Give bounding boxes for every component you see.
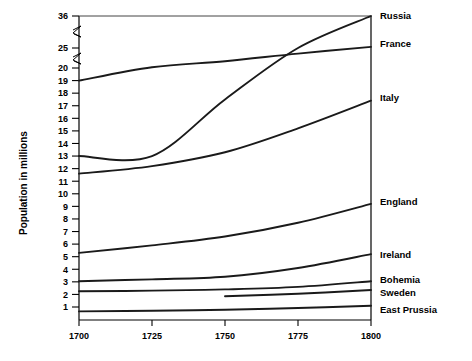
y-tick-label: 9 bbox=[63, 202, 68, 212]
y-tick-label: 25 bbox=[58, 43, 68, 53]
x-tick-label: 1700 bbox=[69, 331, 89, 341]
series-label-england: England bbox=[380, 196, 418, 207]
x-tick-label: 1725 bbox=[142, 331, 162, 341]
y-tick-label: 36 bbox=[58, 11, 68, 21]
x-tick-label: 1800 bbox=[361, 331, 381, 341]
series-label-bohemia: Bohemia bbox=[380, 274, 421, 285]
y-tick-label: 11 bbox=[58, 177, 68, 187]
series-label-russia: Russia bbox=[380, 10, 412, 21]
y-tick-label: 20 bbox=[58, 63, 68, 73]
y-tick-label: 16 bbox=[58, 114, 68, 124]
y-tick-label: 8 bbox=[63, 214, 68, 224]
y-tick-label: 7 bbox=[63, 227, 68, 237]
y-tick-label: 18 bbox=[58, 88, 68, 98]
series-label-sweden: Sweden bbox=[380, 287, 416, 298]
y-tick-label: 4 bbox=[63, 265, 68, 275]
y-tick-label: 15 bbox=[58, 126, 68, 136]
y-tick-label: 10 bbox=[58, 189, 68, 199]
series-label-italy: Italy bbox=[380, 92, 400, 103]
y-axis-title: Population in millions bbox=[18, 131, 29, 235]
y-tick-label: 1 bbox=[63, 302, 68, 312]
x-tick-label: 1775 bbox=[288, 331, 308, 341]
y-tick-label: 6 bbox=[63, 239, 68, 249]
y-tick-label: 17 bbox=[58, 101, 68, 111]
y-axis-title-text: Population in millions bbox=[18, 131, 29, 235]
y-tick-label: 19 bbox=[58, 76, 68, 86]
chart-canvas: Population in millions 36252019181716151… bbox=[0, 0, 472, 361]
y-tick-label: 12 bbox=[58, 164, 68, 174]
y-tick-label: 13 bbox=[58, 151, 68, 161]
series-label-france: France bbox=[380, 38, 411, 49]
y-tick-label: 2 bbox=[63, 290, 68, 300]
y-tick-label: 3 bbox=[63, 277, 68, 287]
series-label-east-prussia: East Prussia bbox=[380, 304, 438, 315]
y-tick-label: 14 bbox=[58, 139, 68, 149]
x-tick-label: 1750 bbox=[215, 331, 235, 341]
population-line-chart: Population in millions 36252019181716151… bbox=[0, 0, 472, 361]
y-tick-label: 5 bbox=[63, 252, 68, 262]
series-label-ireland: Ireland bbox=[380, 249, 411, 260]
